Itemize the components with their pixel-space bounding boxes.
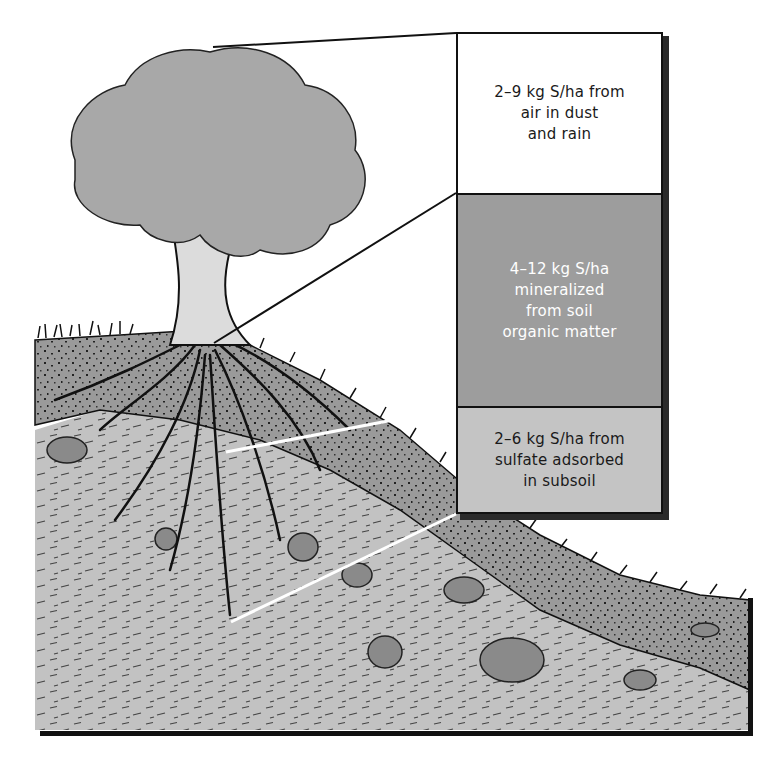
label-box-organic-mineralization: 4–12 kg S/ha mineralized from soil organ… <box>456 193 663 408</box>
frame-bottom-edge <box>40 731 752 736</box>
label-text-air-deposition: 2–9 kg S/ha from air in dust and rain <box>494 82 624 145</box>
tree-canopy <box>71 48 365 256</box>
label-column-shadow <box>663 36 669 520</box>
label-box-subsoil-sulfate: 2–6 kg S/ha from sulfate adsorbed in sub… <box>456 406 663 514</box>
label-text-organic-mineralization: 4–12 kg S/ha mineralized from soil organ… <box>502 259 616 343</box>
frame-right-edge <box>748 598 753 736</box>
leader-line-air <box>213 33 456 47</box>
label-box-air-deposition: 2–9 kg S/ha from air in dust and rain <box>456 32 663 195</box>
label-column-shadow-bottom <box>460 514 669 520</box>
label-text-subsoil-sulfate: 2–6 kg S/ha from sulfate adsorbed in sub… <box>494 429 624 492</box>
